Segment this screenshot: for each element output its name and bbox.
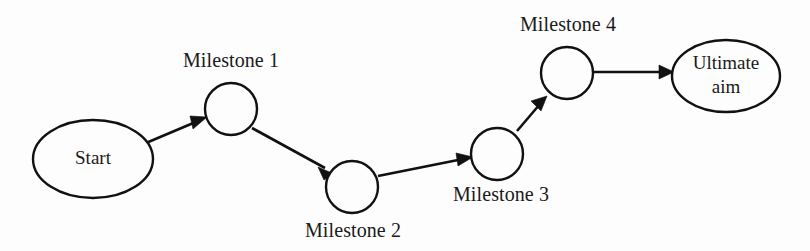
node-milestone4-caption: Milestone 4: [520, 13, 616, 35]
node-start[interactable]: Start: [33, 120, 153, 198]
edge-line: [146, 121, 198, 143]
node-start-label: Start: [75, 147, 112, 168]
node-milestone1[interactable]: [205, 83, 257, 135]
edge-line: [252, 128, 325, 168]
node-milestone4-shape[interactable]: [541, 47, 593, 99]
arrow-head-icon: [190, 116, 207, 129]
node-milestone1-caption: Milestone 1: [183, 49, 279, 71]
node-ultimate-aim-label-line1: Ultimate: [693, 52, 759, 73]
diagram-canvas: Start Milestone 1 Milestone 2 Milestone …: [0, 0, 810, 251]
node-group: Start Milestone 1 Milestone 2 Milestone …: [33, 13, 780, 241]
node-milestone2[interactable]: [326, 161, 378, 213]
diagram-root: Start Milestone 1 Milestone 2 Milestone …: [0, 0, 810, 251]
edge-milestone1-to-milestone2: [252, 128, 334, 180]
edge-start-to-milestone1: [146, 116, 207, 143]
arrow-head-icon: [531, 96, 547, 111]
node-ultimate-aim-label-line2: aim: [712, 76, 741, 97]
edge-line: [378, 159, 463, 176]
node-milestone3[interactable]: [471, 128, 523, 180]
node-milestone2-caption: Milestone 2: [305, 219, 401, 241]
edge-milestone2-to-milestone3: [378, 153, 473, 176]
node-milestone2-shape[interactable]: [326, 161, 378, 213]
edge-milestone4-to-ultimateaim: [594, 65, 674, 79]
node-milestone3-shape[interactable]: [471, 128, 523, 180]
edge-milestone3-to-milestone4: [517, 96, 547, 131]
node-milestone4[interactable]: [541, 47, 593, 99]
node-ultimate-aim[interactable]: Ultimate aim: [672, 40, 780, 112]
node-milestone1-shape[interactable]: [205, 83, 257, 135]
edge-line: [517, 104, 540, 131]
node-milestone3-caption: Milestone 3: [453, 183, 549, 205]
